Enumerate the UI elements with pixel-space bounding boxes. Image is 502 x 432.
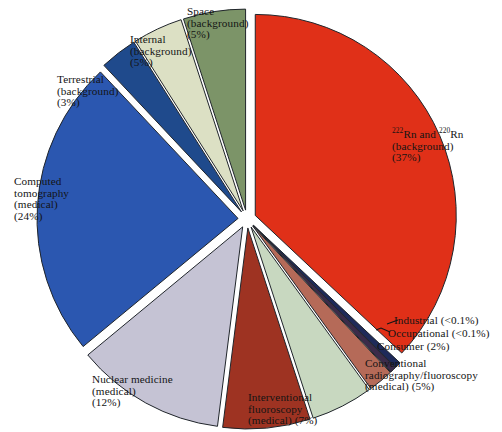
slice-label-internal: Internal (background) (5%) (130, 34, 191, 69)
slice-label-space-line3: (5%) (187, 29, 248, 41)
slice-label-convrad-line3: (medical) (5%) (365, 381, 478, 393)
slice-label-radon-line3: (37%) (392, 152, 464, 164)
slice-label-ct-line4: (24%) (14, 211, 69, 223)
slice-label-convrad-line1: Conventional (365, 358, 478, 370)
slice-label-terrestrial: Terrestrial (background) (3%) (57, 74, 118, 109)
slice-label-radon-line1: 222Rn and 220Rn (392, 129, 464, 141)
radon-tail-text: Rn (450, 128, 463, 140)
slice-label-nuclear-medicine: Nuclear medicine (medical) (12%) (92, 374, 173, 409)
slice-label-internal-line3: (5%) (130, 57, 191, 69)
slice-label-interventional-line1: Interventional (248, 392, 317, 404)
pie-chart-figure: Space (background) (5%) Internal (backgr… (0, 0, 502, 432)
slice-label-industrial: Industrial (<0.1%) (394, 315, 479, 327)
slice-label-terrestrial-line3: (3%) (57, 97, 118, 109)
slice-label-computed-tomography: Computed tomography (medical) (24%) (14, 176, 69, 222)
slice-label-internal-line1: Internal (130, 34, 191, 46)
radon-mid-text: Rn and (403, 128, 439, 140)
radon-superscript-220: 220 (439, 126, 450, 135)
slice-label-terrestrial-line1: Terrestrial (57, 74, 118, 86)
slice-label-occupational: Occupational (<0.1%) (388, 328, 490, 340)
slice-label-consumer: Consumer (2%) (377, 341, 449, 353)
slice-label-interventional-fluoroscopy: Interventional fluoroscopy (medical) (7%… (248, 392, 317, 427)
slice-label-radon: 222Rn and 220Rn (background) (37%) (392, 129, 464, 164)
slice-label-space: Space (background) (5%) (187, 6, 248, 41)
slice-label-space-line1: Space (187, 6, 248, 18)
slice-label-ct-line1: Computed (14, 176, 69, 188)
slice-label-consumer-line1: Consumer (2%) (377, 341, 449, 353)
slice-label-conventional-radiography: Conventional radiography/fluoroscopy (me… (365, 358, 478, 393)
slice-label-interventional-line3: (medical) (7%) (248, 415, 317, 427)
slice-label-nuclear-line3: (12%) (92, 397, 173, 409)
slice-label-industrial-line1: Industrial (<0.1%) (394, 315, 479, 327)
slice-label-nuclear-line1: Nuclear medicine (92, 374, 173, 386)
slice-label-occupational-line1: Occupational (<0.1%) (388, 328, 490, 340)
radon-superscript-222: 222 (392, 126, 403, 135)
